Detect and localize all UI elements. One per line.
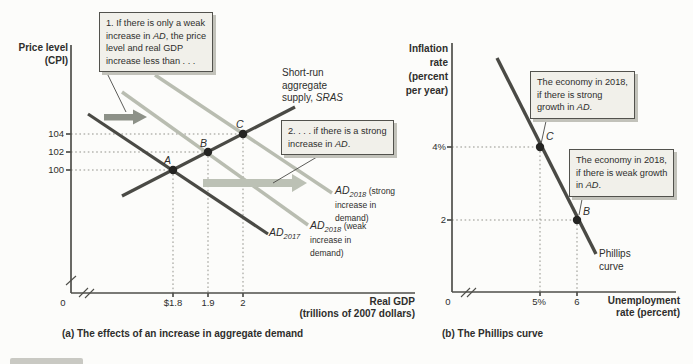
sras-label-italic: SRAS (316, 92, 343, 103)
panel-a-caption: (a) The effects of an increase in aggreg… (62, 328, 303, 339)
callout-economy-weak: The economy in 2018, if there is weak gr… (569, 149, 674, 197)
point-a-label: A (164, 154, 171, 166)
callout-text-italic: AD (335, 139, 348, 149)
sras-label: Short-run aggregate supply, SRAS (282, 67, 343, 105)
panel-a-y-tick-104: 104 (38, 128, 64, 140)
ad2017-label-ad: AD (269, 226, 284, 238)
panel-a-x-tick-2: 2 (240, 297, 245, 309)
ad2017-label-sub: 2017 (284, 232, 301, 241)
point-b-label: B (200, 137, 207, 149)
panel-a-y-tick-102: 102 (38, 146, 64, 158)
panel-b-x-axis-title: Unemployment rate (percent) (580, 295, 680, 319)
figure: Price level (CPI) 104 102 100 0 $1.8 1.9… (0, 0, 693, 364)
strong-shift-arrow-icon (203, 174, 307, 192)
callout-text: . (598, 180, 601, 190)
panel-a-x-tick-0: 0 (60, 297, 65, 309)
panel-b-x-tick-0: 0 (445, 296, 450, 308)
callout-text: . (590, 102, 593, 112)
cropped-ui-fragment (10, 358, 83, 364)
panel-a-y-axis-title: Price level (CPI) (8, 41, 68, 67)
panel-a-x-tick-1-9: 1.9 (201, 297, 214, 309)
panel-a-x-tick-1-8: $1.8 (164, 297, 183, 309)
panel-b-caption: (b) The Phillips curve (442, 328, 543, 339)
panel-b-x-tick-5: 5% (532, 296, 546, 308)
callout-text-italic: AD (153, 31, 166, 41)
panel-a-x-axis-title: Real GDP (trillions of 2007 dollars) (290, 296, 415, 320)
panel-b-y-tick-2: 2 (422, 214, 446, 226)
ad2018-strong-label-ad: AD (335, 184, 350, 196)
ad2018-weak-label: AD2018 (weak increase in demand) (310, 219, 366, 260)
callout-strong-increase: 2. . . . if there is a strong increase i… (281, 120, 394, 155)
ad2018-weak-label-ad: AD (310, 219, 325, 231)
panel-b-dotted-guides (452, 147, 577, 292)
phillips-curve-label: Phillips curve (599, 248, 631, 273)
callout-economy-strong: The economy in 2018, if there is strong … (530, 71, 635, 119)
point-c-label: C (236, 118, 244, 130)
panel-b-y-tick-4: 4% (422, 141, 446, 153)
ad2018-weak-label-sub: 2018 (325, 225, 342, 234)
callout-text-italic: AD (586, 180, 599, 190)
point-c-label-b: C (546, 130, 554, 142)
panel-b-y-axis-title: Inflation rate (percent per year) (398, 42, 448, 98)
callout-text: . (348, 139, 351, 149)
panel-b-x-tick-6: 6 (574, 296, 579, 308)
panel-a-dotted-guides (71, 134, 243, 293)
ad2018-strong-label-sub: 2018 (350, 190, 367, 199)
ad2017-label: AD2017 (269, 226, 300, 238)
panel-a-y-tick-100: 100 (38, 164, 64, 176)
point-b-label-b: B (583, 205, 590, 217)
callout-text-italic: AD (577, 102, 590, 112)
callout-weak-increase: 1. If there is only a weak increase in A… (99, 12, 213, 72)
